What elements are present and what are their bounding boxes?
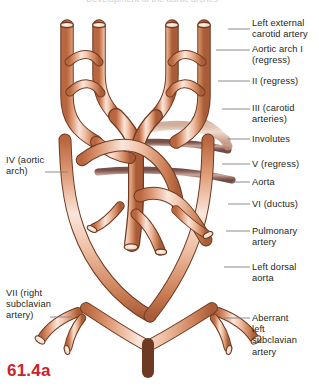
label-vii-right-subclavian-artery: VII (rightsubclavianartery) <box>6 288 51 322</box>
label-iv-aortic-arch: IV (aorticarch) <box>6 155 44 177</box>
label-iv-aortic-arch-line-2: arch) <box>6 166 44 177</box>
label-vii-right-subclavian-artery-line-3: artery) <box>6 310 51 321</box>
label-vii-right-subclavian-artery-line-1: VII (right <box>6 288 51 299</box>
label-v-regress: V (regress) <box>252 159 299 170</box>
label-aorta: Aorta <box>252 177 275 188</box>
label-pulmonary-artery: Pulmonary artery <box>252 226 297 248</box>
label-involutes: Involutes <box>252 134 290 145</box>
label-vii-right-subclavian-artery-line-2: subclavian <box>6 299 51 310</box>
label-left-external-carotid-artery: Left external carotid artery <box>252 18 308 40</box>
label-iii-carotid-arteries: III (carotid arteries) <box>252 103 295 125</box>
label-iv-aortic-arch-line-1: IV (aortic <box>6 155 44 166</box>
label-left-dorsal-aorta: Left dorsal aorta <box>252 262 297 284</box>
label-ii-regress: II (regress) <box>252 76 298 87</box>
label-aberrant-left-subclavian-artery: Aberrant left subclavian artery <box>252 313 297 358</box>
figure-canvas: Development of the aortic arches <box>0 0 319 391</box>
vessel-group-main <box>42 26 254 372</box>
label-aortic-arch-i-regress: Aortic arch I (regress) <box>252 44 303 66</box>
figure-caption: 61.4a <box>7 361 51 381</box>
label-vi-ductus: VI (ductus) <box>252 199 298 210</box>
